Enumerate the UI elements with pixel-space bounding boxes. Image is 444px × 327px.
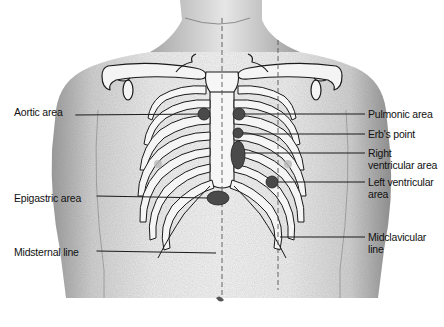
label-left-ventricular-area: Left ventricular area	[368, 176, 444, 200]
erbs-marker	[233, 128, 243, 138]
chest-diagram: Aortic area Epigastric area Midsternal l…	[0, 0, 444, 327]
label-right-ventricular-area: Right ventricular area	[368, 147, 444, 171]
label-midclavicular-line: Midclavicular line	[368, 231, 444, 255]
right-ventricular-marker	[231, 141, 245, 169]
aortic-marker	[198, 108, 210, 120]
epigastric-marker	[207, 191, 229, 205]
left-ventricular-marker	[266, 176, 278, 188]
label-pulmonic-area: Pulmonic area	[368, 108, 433, 120]
label-erbs-point: Erb's point	[368, 128, 415, 140]
label-epigastric-area: Epigastric area	[14, 192, 81, 204]
label-midsternal-line: Midsternal line	[14, 246, 79, 258]
neck	[150, 0, 300, 52]
pulmonic-marker	[233, 108, 245, 120]
label-aortic-area: Aortic area	[14, 106, 63, 118]
